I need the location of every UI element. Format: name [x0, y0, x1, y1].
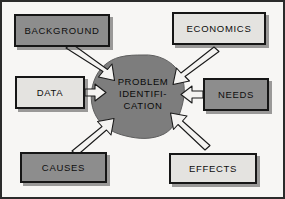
arrow-effects-to-center	[171, 113, 211, 150]
node-effects-label: EFFECTS	[189, 163, 237, 174]
node-data[interactable]: DATA	[15, 76, 85, 109]
node-data-label: DATA	[37, 87, 64, 98]
node-causes-label: CAUSES	[42, 162, 85, 173]
node-needs[interactable]: NEEDS	[203, 78, 269, 111]
node-effects[interactable]: EFFECTS	[169, 153, 257, 184]
node-economics[interactable]: ECONOMICS	[172, 12, 266, 45]
arrow-causes-to-center	[72, 119, 114, 156]
node-background-label: BACKGROUND	[24, 25, 99, 36]
diagram-canvas: BACKGROUND ECONOMICS DATA NEEDS CAUSES E…	[0, 0, 285, 199]
node-background[interactable]: BACKGROUND	[14, 14, 110, 47]
node-economics-label: ECONOMICS	[187, 23, 252, 34]
arrow-background-to-center	[66, 44, 115, 81]
node-causes[interactable]: CAUSES	[20, 152, 107, 183]
node-needs-label: NEEDS	[218, 89, 254, 100]
